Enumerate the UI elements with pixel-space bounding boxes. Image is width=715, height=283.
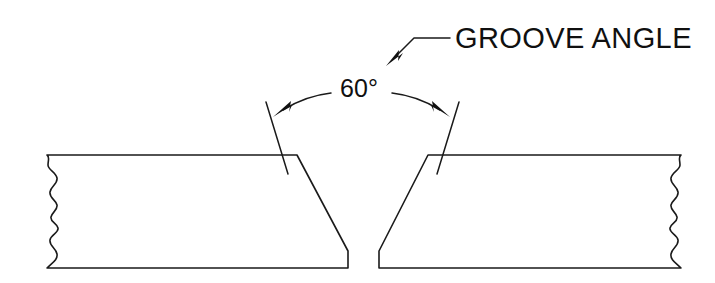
- dimension-arrow-right-icon: [431, 101, 450, 117]
- groove-angle-drawing: 60° GROOVE ANGLE: [0, 0, 715, 283]
- technical-drawing-canvas: 60° GROOVE ANGLE: [0, 0, 715, 283]
- left-plate-group: [47, 155, 348, 268]
- groove-angle-label: GROOVE ANGLE: [455, 22, 692, 54]
- dimension-arrow-left-icon: [273, 101, 292, 117]
- leader-line-group: [386, 38, 450, 66]
- angle-dimension-group: 60°: [273, 74, 450, 117]
- left-plate-outline: [47, 155, 348, 268]
- leader-line: [396, 38, 450, 56]
- right-plate-group: [379, 155, 681, 268]
- angle-dimension-text: 60°: [340, 74, 378, 102]
- right-plate-outline: [379, 155, 681, 268]
